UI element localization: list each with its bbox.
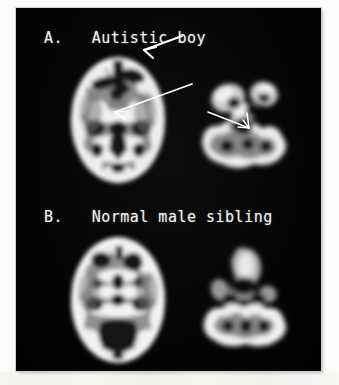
- pet-scan-figure: A. Autistic boy B. Normal male sibling: [0, 0, 339, 385]
- panel-b-label: B. Normal male sibling: [44, 208, 273, 226]
- photographic-plate: A. Autistic boy B. Normal male sibling: [16, 8, 321, 371]
- panel-a-label: A. Autistic boy: [44, 29, 206, 47]
- arrow-basal-ganglia: [115, 84, 192, 119]
- scan-b-left: [70, 237, 166, 363]
- scan-image-stack: [16, 8, 321, 371]
- arrow-temporal: [208, 112, 249, 128]
- scan-paper-artifact: [0, 372, 339, 385]
- scan-a-left: [70, 57, 166, 183]
- scan-b-right: [204, 248, 286, 347]
- scan-a-right: [202, 79, 286, 168]
